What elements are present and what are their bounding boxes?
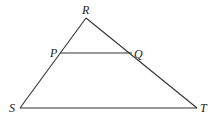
segment-rs — [20, 18, 86, 108]
segment-rt — [86, 18, 197, 108]
label-r: R — [81, 3, 90, 17]
label-s: S — [9, 101, 15, 115]
label-q: Q — [134, 47, 143, 61]
label-p: P — [49, 46, 58, 60]
label-t: T — [200, 101, 208, 115]
triangle-diagram: R P Q S T — [0, 0, 221, 120]
